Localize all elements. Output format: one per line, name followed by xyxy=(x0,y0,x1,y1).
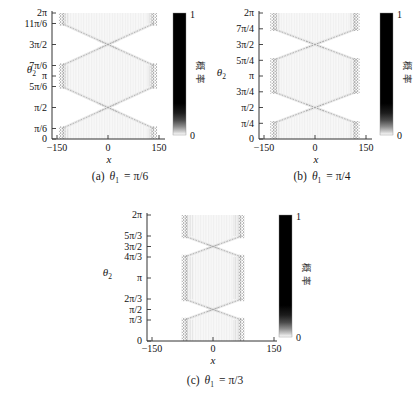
probability-region xyxy=(185,310,242,342)
y-tick-label: π/6 xyxy=(34,123,47,134)
front-speckle-band xyxy=(353,13,359,31)
front-speckle-band xyxy=(59,63,65,88)
figure-canvas: 0π/6π/25π/6π7π/63π/211π/62π−1500150x10概率… xyxy=(0,0,415,400)
x-tick-label: 0 xyxy=(313,142,318,153)
y-tick-label: 2π xyxy=(132,209,142,220)
colorbar-min-label: 0 xyxy=(397,130,402,141)
x-tick-label: 150 xyxy=(359,142,374,153)
colorbar-axis-label: 概率 xyxy=(402,61,413,87)
probability-region xyxy=(274,13,357,45)
front-speckle-band xyxy=(238,318,244,341)
front-speckle-band xyxy=(181,255,187,301)
front-speckle-band xyxy=(270,58,276,94)
subplot-caption-c: (c)θ1= π/3 xyxy=(130,374,300,389)
x-tick-label: 150 xyxy=(267,343,282,354)
front-speckle-band xyxy=(59,13,65,26)
front-speckle-band xyxy=(151,126,157,139)
front-speckle-band xyxy=(181,215,187,238)
y-tick-label: 4π/3 xyxy=(124,251,142,262)
colorbar xyxy=(279,215,292,337)
y-tick-label: 2π/3 xyxy=(124,293,142,304)
front-speckle-band xyxy=(270,121,276,139)
y-tick-label: 3π/2 xyxy=(236,39,254,50)
probability-region xyxy=(274,45,357,108)
front-speckle-band xyxy=(59,126,65,139)
y-tick-label: π/3 xyxy=(129,314,142,325)
y-tick-label: π xyxy=(42,70,47,81)
y-tick-label: 11π/6 xyxy=(25,18,47,29)
y-axis-label-c: θ2 xyxy=(94,266,112,281)
y-tick-label: π/2 xyxy=(34,102,47,113)
front-speckle-band xyxy=(353,121,359,139)
y-tick-label: π xyxy=(137,272,142,283)
x-tick-label: 0 xyxy=(106,142,111,153)
y-tick-label: 7π/4 xyxy=(236,23,254,34)
y-tick-label: 5π/3 xyxy=(124,230,142,241)
y-tick-label: 3π/4 xyxy=(236,86,254,97)
colorbar-max-label: 1 xyxy=(296,211,301,222)
front-speckle-band xyxy=(151,13,157,26)
y-tick-label: π/4 xyxy=(241,118,254,129)
colorbar-min-label: 0 xyxy=(296,332,301,343)
subplot-(a): 0π/6π/25π/6π7π/63π/211π/62π−1500150x10概率 xyxy=(25,7,206,165)
y-tick-label: 5π/4 xyxy=(236,55,254,66)
x-tick-label: −150 xyxy=(142,343,163,354)
probability-region xyxy=(185,247,242,310)
colorbar xyxy=(380,13,393,135)
y-axis-label-b: θ2 xyxy=(208,66,226,81)
front-speckle-band xyxy=(270,13,276,31)
colorbar-axis-label: 概率 xyxy=(301,263,312,289)
subplot-caption-b: (b)θ1= π/4 xyxy=(237,170,407,185)
front-speckle-band xyxy=(181,318,187,341)
y-tick-label: π xyxy=(249,70,254,81)
x-axis-label: x xyxy=(106,153,112,165)
x-axis-label: x xyxy=(313,153,319,165)
front-speckle-band xyxy=(151,63,157,88)
front-speckle-band xyxy=(238,215,244,238)
colorbar xyxy=(173,13,186,135)
x-tick-label: 0 xyxy=(211,343,216,354)
y-tick-label: 3π/2 xyxy=(124,241,142,252)
x-tick-label: −150 xyxy=(47,142,68,153)
subplot-(c): 0π/3π/22π/3π4π/33π/25π/32π−1500150x10概率 xyxy=(124,209,312,366)
probability-region xyxy=(185,215,242,247)
y-tick-label: 2π xyxy=(244,7,254,18)
y-axis-label-a: θ2 xyxy=(18,63,36,78)
y-tick-label: 2π xyxy=(37,7,47,18)
x-axis-label: x xyxy=(210,354,216,366)
x-tick-label: 150 xyxy=(152,142,167,153)
y-tick-label: π/2 xyxy=(241,102,254,113)
colorbar-max-label: 1 xyxy=(397,9,402,20)
probability-region xyxy=(274,108,357,140)
probability-region xyxy=(62,45,154,108)
front-speckle-band xyxy=(353,58,359,94)
subplot-(b): 0π/4π/23π/4π5π/43π/27π/42π−1500150x10概率 xyxy=(236,7,413,165)
colorbar-axis-label: 概率 xyxy=(195,61,206,87)
front-speckle-band xyxy=(238,255,244,301)
colorbar-min-label: 0 xyxy=(190,130,195,141)
y-tick-label: 3π/2 xyxy=(29,39,47,50)
figure: 0π/6π/25π/6π7π/63π/211π/62π−1500150x10概率… xyxy=(0,0,415,400)
subplot-caption-a: (a)θ1= π/6 xyxy=(35,170,205,185)
y-tick-label: 5π/6 xyxy=(29,81,47,92)
x-tick-label: −150 xyxy=(254,142,275,153)
y-tick-label: π/2 xyxy=(129,304,142,315)
colorbar-max-label: 1 xyxy=(190,9,195,20)
